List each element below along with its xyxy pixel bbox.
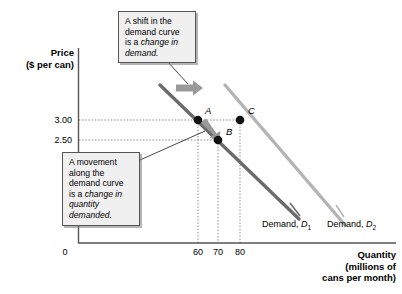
curve-label-d2: Demand, D2 [327, 219, 376, 231]
point-label-c: C [248, 105, 255, 116]
data-point-c[interactable] [236, 116, 245, 125]
x-axis-title-line3: cans per month) [322, 272, 396, 283]
y-tick-label-300: 3.00 [42, 115, 72, 125]
point-label-b: B [226, 126, 232, 137]
curve-label-d2-text: Demand, [327, 219, 366, 229]
point-label-a: A [205, 105, 211, 116]
shift-arrow [176, 81, 203, 96]
callout-shift-line2: demand curve [125, 27, 179, 37]
demand-curve-figure: Price($ per can) Quantity(millions ofcan… [0, 0, 402, 294]
callout-movement-line5-italic: quantity [69, 199, 99, 209]
x-axis-title: Quantity(millions ofcans per month) [268, 249, 396, 284]
x-tick-label-80: 80 [230, 247, 250, 257]
y-axis-title: Price($ per can) [8, 47, 74, 70]
x-tick-label-60: 60 [188, 247, 208, 257]
callout-shift-line3-plain: is a [125, 37, 141, 47]
data-point-b[interactable] [214, 136, 223, 145]
curve-label-d2-sub: 2 [373, 224, 377, 231]
callout-shift-line4-italic: demand. [125, 48, 158, 58]
callout-movement-line2: along the [69, 168, 104, 178]
demand-curve-d1 [160, 85, 299, 219]
callout-shift-line3-italic: change in [141, 37, 178, 47]
y-tick-label-250: 2.50 [42, 135, 72, 145]
callout-shift-in-demand: A shift in thedemand curveis a change in… [118, 11, 196, 63]
callout-movement-line6-italic: demanded. [69, 210, 112, 220]
data-point-a[interactable] [194, 116, 203, 125]
curve-label-d1-sub: 1 [308, 224, 312, 231]
callout-movement-along-curve: A movementalong thedemand curveis a chan… [62, 152, 140, 226]
callout-movement-line4-italic: change in [85, 189, 122, 199]
x-axis-title-line1: Quantity [357, 249, 396, 260]
x-axis-title-line2: (millions of [345, 261, 396, 272]
callout-shift-line1: A shift in the [125, 16, 172, 26]
x-tick-label-70: 70 [208, 247, 228, 257]
leader-line-movement [140, 131, 205, 160]
callout-movement-line1: A movement [69, 157, 117, 167]
y-axis-title-line1: Price [51, 47, 74, 58]
curve-label-d1: Demand, D1 [262, 219, 311, 231]
callout-movement-line3: demand curve [69, 178, 123, 188]
curve-label-d1-text: Demand, [262, 219, 301, 229]
y-axis-title-line2: ($ per can) [26, 59, 74, 70]
callout-movement-line4-plain: is a [69, 189, 85, 199]
origin-label: 0 [55, 247, 75, 257]
